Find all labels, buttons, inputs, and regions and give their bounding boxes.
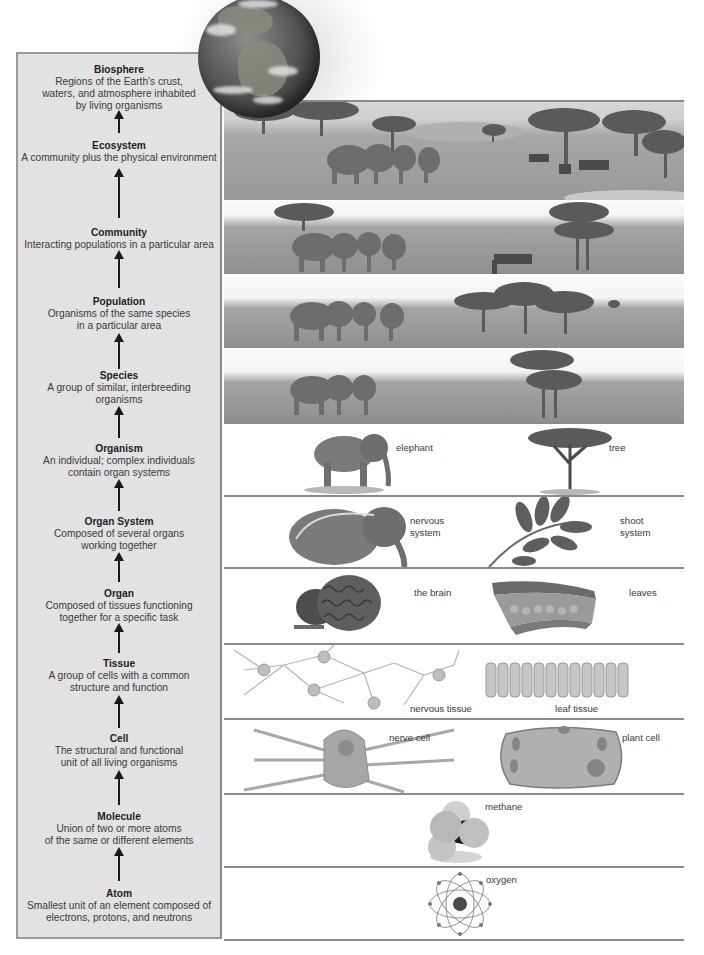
arrow-up-icon <box>118 118 120 133</box>
level-title: Molecule <box>16 811 222 823</box>
arrow-up-icon <box>118 487 120 511</box>
level-desc: Composed of tissues functioning together… <box>16 600 222 624</box>
level-title: Tissue <box>16 658 222 670</box>
level-title: Biosphere <box>16 64 222 76</box>
community-scene-icon <box>224 202 684 274</box>
level-title: Ecosystem <box>16 140 222 152</box>
shoot-system-icon <box>224 497 684 567</box>
row-divider <box>224 939 684 941</box>
arrow-up-icon <box>118 341 120 369</box>
plant-cell-icon <box>224 720 684 793</box>
level-atom: Atom Smallest unit of an element compose… <box>16 888 222 924</box>
cell-left-label: nerve cell <box>389 732 430 744</box>
organ-illustration: the brain leaves <box>224 569 684 643</box>
methane-molecule-icon <box>224 795 684 866</box>
level-title: Organ System <box>16 516 222 528</box>
cell-right-label: plant cell <box>622 732 660 744</box>
tissue-left-label: nervous tissue <box>410 703 472 715</box>
species-illustration <box>224 350 684 422</box>
molecule-illustration: methane <box>224 795 684 866</box>
tissue-illustration: nervous tissue leaf tissue <box>224 645 684 718</box>
organism-right-label: tree <box>609 442 626 454</box>
level-desc: A group of cells with a common structure… <box>16 670 222 694</box>
level-title: Community <box>16 227 222 239</box>
level-desc: Union of two or more atoms of the same o… <box>16 823 222 847</box>
level-tissue: Tissue A group of cells with a common st… <box>16 658 222 694</box>
cell-illustration: nerve cell plant cell <box>224 720 684 793</box>
organ-left-label: the brain <box>414 587 451 599</box>
community-illustration <box>224 202 684 274</box>
level-title: Organism <box>16 443 222 455</box>
level-desc: An individual; complex individuals conta… <box>16 455 222 479</box>
level-cell: Cell The structural and functional unit … <box>16 733 222 769</box>
organ-system-illustration: nervous system shoot system <box>224 497 684 567</box>
atom-illustration: oxygen <box>224 868 684 940</box>
level-organism: Organism An individual; complex individu… <box>16 443 222 479</box>
organism-illustration: elephant tree <box>224 424 684 496</box>
level-organ: Organ Composed of tissues functioning to… <box>16 588 222 624</box>
level-title: Atom <box>16 888 222 900</box>
level-ecosystem: Ecosystem A community plus the physical … <box>16 140 222 164</box>
level-title: Population <box>16 296 222 308</box>
level-title: Species <box>16 370 222 382</box>
level-desc: Smallest unit of an element composed of … <box>16 900 222 924</box>
tree-icon <box>224 424 684 496</box>
level-species: Species A group of similar, interbreedin… <box>16 370 222 406</box>
level-desc: A group of similar, interbreeding organi… <box>16 382 222 406</box>
organ-system-left-label: nervous system <box>410 515 444 539</box>
level-desc: Composed of several organs working toget… <box>16 528 222 552</box>
population-illustration <box>224 276 684 348</box>
population-scene-icon <box>224 276 684 348</box>
tissue-right-label: leaf tissue <box>555 703 598 715</box>
level-community: Community Interacting populations in a p… <box>16 227 222 251</box>
arrow-up-icon <box>118 703 120 728</box>
arrow-up-icon <box>118 855 120 881</box>
arrow-up-icon <box>118 258 120 288</box>
arrow-up-icon <box>118 778 120 805</box>
level-desc: Organisms of the same species in a parti… <box>16 308 222 332</box>
leaf-cross-section-icon <box>224 569 684 643</box>
arrow-up-icon <box>118 631 120 653</box>
organism-left-label: elephant <box>396 442 433 454</box>
atom-label: oxygen <box>486 874 517 886</box>
arrow-up-icon <box>118 176 120 218</box>
savanna-scene-icon <box>224 102 684 200</box>
arrow-up-icon <box>118 414 120 438</box>
ecosystem-illustration <box>224 100 684 200</box>
arrow-up-icon <box>118 560 120 582</box>
organ-system-right-label: shoot system <box>620 515 650 539</box>
earth-globe-icon <box>198 0 320 118</box>
level-desc: The structural and functional unit of al… <box>16 745 222 769</box>
level-desc: A community plus the physical environmen… <box>16 152 222 164</box>
level-molecule: Molecule Union of two or more atoms of t… <box>16 811 222 847</box>
species-scene-icon <box>224 350 684 422</box>
level-organ-system: Organ System Composed of several organs … <box>16 516 222 552</box>
level-population: Population Organisms of the same species… <box>16 296 222 332</box>
level-title: Organ <box>16 588 222 600</box>
level-biosphere: Biosphere Regions of the Earth's crust, … <box>16 64 222 112</box>
level-title: Cell <box>16 733 222 745</box>
organ-right-label: leaves <box>629 587 657 599</box>
level-desc: Regions of the Earth's crust, waters, an… <box>16 76 222 112</box>
oxygen-atom-icon <box>224 868 684 940</box>
molecule-label: methane <box>485 801 522 813</box>
